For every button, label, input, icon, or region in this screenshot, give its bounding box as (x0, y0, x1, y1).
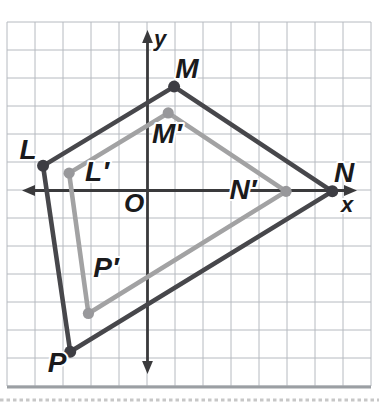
vertex-label-n-prime: N′ (230, 174, 258, 205)
vertex-label-l-prime: L′ (85, 156, 110, 187)
vertex-dot-p-prime (83, 308, 94, 319)
y-axis-label: y (153, 26, 168, 51)
vertex-dot-l-prime (64, 168, 75, 179)
vertex-label-p: P (48, 347, 67, 378)
vertex-label-m-prime: M′ (152, 118, 183, 149)
x-axis-label: x (340, 192, 354, 217)
coordinate-grid-figure: L′M′N′P′LMNPOxy (0, 0, 379, 405)
vertex-label-m: M (175, 53, 199, 84)
vertex-dot-n-prime (281, 186, 292, 197)
vertex-label-l: L (19, 134, 36, 165)
origin-label: O (124, 188, 144, 218)
vertex-label-n: N (334, 157, 355, 188)
dilation-diagram-svg: L′M′N′P′LMNPOxy (0, 0, 379, 405)
vertex-dot-l (37, 160, 49, 172)
vertex-label-p-prime: P′ (93, 252, 120, 283)
